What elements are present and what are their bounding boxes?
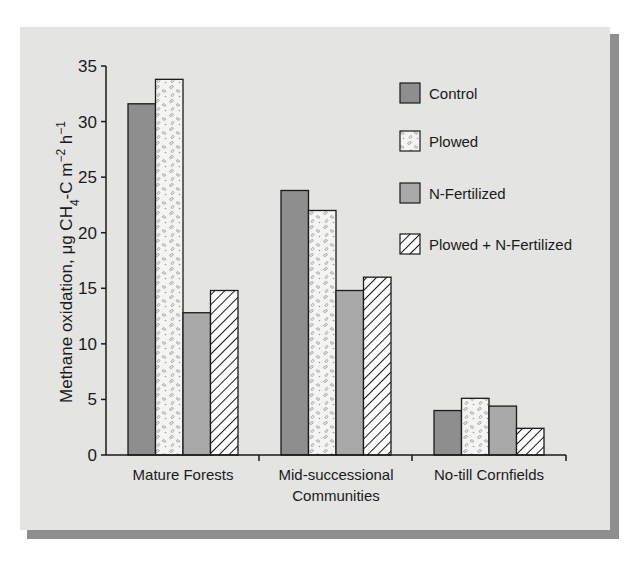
y-tick-label: 25 bbox=[78, 168, 97, 187]
bar-chart: Methane oxidation, μg CH4-C m−2 h−1 0510… bbox=[0, 0, 634, 562]
bar-group bbox=[128, 79, 238, 455]
legend-swatch bbox=[400, 183, 420, 203]
bar-plowed-n-fertilized bbox=[211, 291, 239, 455]
legend-item: Plowed + N-Fertilized bbox=[400, 234, 572, 254]
y-tick-label: 35 bbox=[78, 57, 97, 76]
bar-plowed bbox=[156, 79, 184, 455]
legend: ControlPlowedN-FertilizedPlowed + N-Fert… bbox=[400, 83, 572, 254]
legend-label: Control bbox=[429, 85, 477, 102]
y-tick-label: 30 bbox=[78, 113, 97, 132]
bar-plowed-n-fertilized bbox=[364, 277, 392, 455]
bar-plowed bbox=[309, 210, 337, 455]
legend-label: N-Fertilized bbox=[429, 185, 506, 202]
bar-n-fertilized bbox=[183, 313, 211, 455]
bar-group bbox=[434, 398, 544, 455]
legend-item: Control bbox=[400, 83, 477, 103]
legend-item: N-Fertilized bbox=[400, 183, 506, 203]
category-label: Communities bbox=[292, 487, 380, 504]
legend-label: Plowed + N-Fertilized bbox=[429, 236, 572, 253]
y-tick-label: 10 bbox=[78, 335, 97, 354]
legend-swatch bbox=[400, 131, 420, 151]
bar-n-fertilized bbox=[489, 406, 517, 455]
bar-n-fertilized bbox=[336, 291, 364, 455]
bar-control bbox=[434, 411, 462, 455]
category-label: No-till Cornfields bbox=[434, 466, 544, 483]
y-tick-label: 5 bbox=[88, 390, 97, 409]
bar-group bbox=[281, 190, 391, 455]
y-axis-label: Methane oxidation, μg CH4-C m−2 h−1 bbox=[54, 121, 82, 403]
y-tick-label: 20 bbox=[78, 224, 97, 243]
legend-swatch bbox=[400, 83, 420, 103]
x-axis: Mature ForestsMid-successionalCommunitie… bbox=[106, 455, 566, 504]
bar-plowed-n-fertilized bbox=[517, 428, 545, 455]
y-tick-label: 0 bbox=[88, 446, 97, 465]
category-label: Mid-successional bbox=[278, 466, 393, 483]
y-axis: 05101520253035 bbox=[78, 57, 106, 465]
legend-swatch bbox=[400, 234, 420, 254]
category-label: Mature Forests bbox=[133, 466, 234, 483]
y-tick-label: 15 bbox=[78, 279, 97, 298]
bar-control bbox=[281, 190, 309, 455]
legend-item: Plowed bbox=[400, 131, 478, 151]
bar-plowed bbox=[462, 398, 490, 455]
svg-text:Methane oxidation, μg CH4-C m−: Methane oxidation, μg CH4-C m−2 h−1 bbox=[54, 121, 82, 403]
bars bbox=[128, 79, 544, 455]
bar-control bbox=[128, 104, 156, 455]
legend-label: Plowed bbox=[429, 133, 478, 150]
